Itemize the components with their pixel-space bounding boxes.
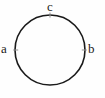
label-b: b <box>88 42 95 55</box>
circle-outline <box>15 15 85 85</box>
circle-diagram-figure: a b c <box>0 0 105 98</box>
label-a: a <box>1 42 7 55</box>
label-c: c <box>47 0 53 13</box>
